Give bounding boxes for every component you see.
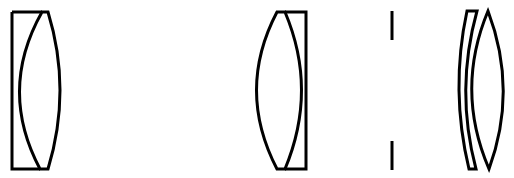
biconvex-lens-3 [472, 11, 504, 169]
doublet-1 [12, 12, 60, 169]
meniscus-lens [459, 11, 477, 169]
lens-diagram: Optical lens system schematic [0, 0, 514, 178]
doublet-2 [257, 12, 307, 169]
biconvex-lens-2 [257, 12, 302, 169]
biconvex-lens-1 [19, 12, 60, 169]
plate-1 [12, 12, 42, 169]
